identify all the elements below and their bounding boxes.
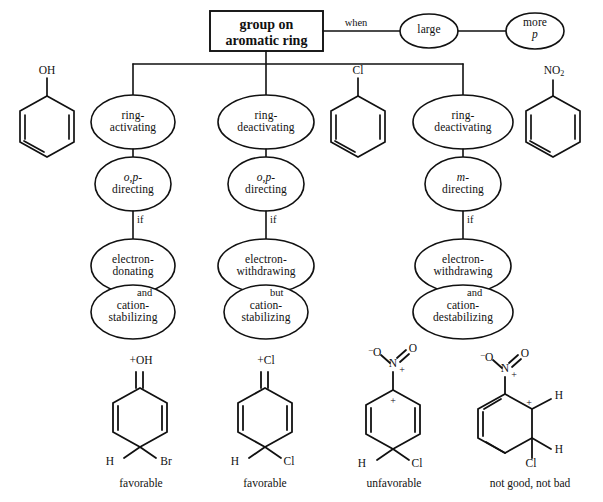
- node-more-p-label: more p: [505, 17, 565, 40]
- node-b1-3-label: electron- donating: [88, 254, 178, 277]
- node-b3-4-label: cation- destabilizing: [408, 300, 518, 323]
- product-1-caption: favorable: [100, 478, 182, 490]
- node-b1-2-label: o,p- directing: [88, 172, 178, 195]
- molecule-chlorobenzene: [331, 78, 385, 157]
- node-b3-1-label: ring- deactivating: [413, 110, 513, 133]
- phenol-oh-label: OH: [32, 65, 62, 77]
- product-4-o-label: O: [517, 348, 533, 360]
- product-4-o-minus-label: –O: [474, 350, 500, 364]
- title-box-line1: group on: [240, 17, 294, 32]
- product-2-bottom-left-label: H: [225, 456, 245, 468]
- product-3-o-label: O: [405, 343, 421, 355]
- molecule-phenol: [20, 78, 74, 157]
- node-large-label: large: [399, 24, 459, 36]
- edge-label-b1-if: if: [137, 215, 167, 226]
- molecule-nitrobenzene: [526, 80, 580, 157]
- title-box-label: group on aromatic ring: [210, 17, 323, 48]
- title-box-line2: aromatic ring: [226, 33, 308, 48]
- product-1-top-label: +OH: [118, 355, 164, 367]
- node-b3-2-label: m- directing: [418, 172, 508, 195]
- product-1-bottom-left-label: H: [100, 456, 120, 468]
- product-3-o-minus-label: –O: [362, 345, 388, 359]
- product-3-caption: unfavorable: [346, 478, 442, 490]
- product-4-caption: not good, not bad: [466, 478, 594, 490]
- node-b2-2-label: o,p- directing: [221, 172, 311, 195]
- product-4-right-top-label: H: [550, 390, 568, 402]
- product-2-structure: [238, 372, 292, 458]
- node-b2-4-label: cation- stabilizing: [221, 300, 311, 323]
- product-4-bottom-left-label: Cl: [519, 458, 543, 470]
- edge-label-b1-and: and: [137, 288, 171, 299]
- nitrobenzene-no2-label: NO2: [536, 65, 572, 78]
- product-3-ring-plus-charge: +: [388, 396, 398, 406]
- product-1-bottom-right-label: Br: [154, 456, 178, 468]
- node-more-p-line2: p: [505, 29, 565, 41]
- node-b1-1-label: ring- activating: [88, 110, 178, 133]
- product-3-n-plus-charge: +: [397, 365, 407, 375]
- product-4-n-plus-charge: +: [509, 370, 519, 380]
- product-2-caption: favorable: [224, 478, 306, 490]
- flowchart-canvas: [0, 0, 603, 502]
- edge-label-b2-but: but: [270, 288, 304, 299]
- edge-label-when: when: [336, 18, 376, 29]
- product-2-bottom-right-label: Cl: [278, 456, 300, 468]
- product-4-ring-plus-charge: +: [524, 398, 534, 408]
- nitro-n-label: NO2: [544, 64, 565, 76]
- product-4-right-bottom-label: H: [550, 444, 568, 456]
- product-1-structure: [113, 372, 167, 458]
- product-3-bottom-left-label: H: [352, 458, 372, 470]
- node-b1-4-label: cation- stabilizing: [88, 300, 178, 323]
- chlorobenzene-cl-label: Cl: [344, 65, 372, 77]
- edge-label-b3-if: if: [467, 215, 497, 226]
- edge-label-b3-and: and: [467, 288, 501, 299]
- node-b3-3-label: electron- withdrawing: [413, 254, 513, 277]
- product-3-bottom-right-label: Cl: [406, 458, 428, 470]
- node-b2-3-label: electron- withdrawing: [216, 254, 316, 277]
- edge-label-b2-if: if: [270, 215, 300, 226]
- node-b2-1-label: ring- deactivating: [216, 110, 316, 133]
- product-2-top-label: +Cl: [245, 355, 287, 367]
